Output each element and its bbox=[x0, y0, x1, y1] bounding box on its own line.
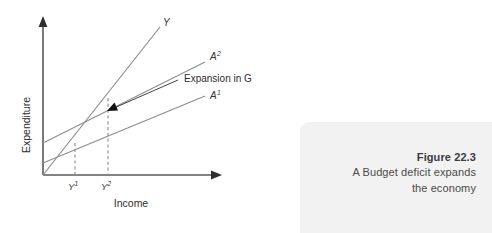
tick-label-Y1-superscript: 1 bbox=[75, 180, 79, 187]
curve-label-A2-base: A bbox=[209, 51, 217, 62]
curves-group bbox=[43, 27, 205, 175]
aggregate-demand-line-A1 bbox=[43, 96, 205, 163]
x-axis-arrowhead-icon bbox=[211, 171, 222, 180]
expansion-arrow-shaft bbox=[114, 80, 178, 108]
curve-label-A2-superscript: 2 bbox=[216, 50, 221, 57]
income-line-Y bbox=[43, 27, 160, 175]
curve-label-A1-superscript: 1 bbox=[217, 89, 221, 96]
tick-label-Y2-superscript: 2 bbox=[107, 180, 112, 187]
expansion-arrowhead-icon bbox=[107, 103, 118, 112]
equilibrium-droplines-group bbox=[75, 98, 108, 175]
figure-caption-title: Figure 22.3 bbox=[310, 150, 476, 165]
figure-container: Y A 2 A 1 Expansion in G Y 1 Y 2 Expendi… bbox=[0, 0, 492, 233]
figure-caption-line-1: A Budget deficit expands bbox=[310, 165, 476, 181]
y-axis-arrowhead-icon bbox=[39, 16, 48, 27]
curve-label-Y: Y bbox=[163, 17, 171, 28]
expansion-annotation-group bbox=[107, 80, 178, 111]
annotation-expansion-in-g: Expansion in G bbox=[184, 73, 252, 84]
aggregate-demand-line-A2 bbox=[43, 62, 205, 143]
x-axis-title: Income bbox=[114, 197, 149, 209]
curve-label-A1-base: A bbox=[209, 90, 217, 101]
y-axis-title: Expenditure bbox=[20, 97, 32, 153]
figure-caption-panel: Figure 22.3 A Budget deficit expands the… bbox=[300, 122, 492, 233]
figure-caption-line-2: the economy bbox=[310, 181, 476, 197]
axes-group bbox=[39, 16, 222, 179]
